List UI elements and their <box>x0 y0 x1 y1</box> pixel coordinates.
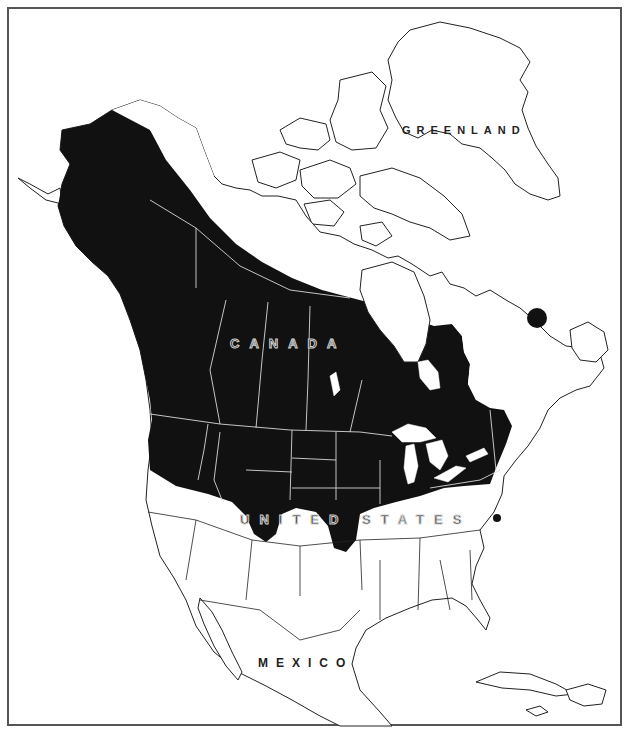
alaska-peninsula <box>18 178 62 204</box>
cuba <box>476 672 574 696</box>
ellesmere-island <box>330 72 388 150</box>
label-greenland: GREENLAND <box>402 124 526 136</box>
victoria-island <box>300 160 356 198</box>
label-united-states: UNITED STATES <box>240 512 471 527</box>
greenland-landmass <box>388 22 560 200</box>
label-mexico: MEXICO <box>258 656 353 670</box>
jamaica <box>526 706 548 716</box>
southampton-island <box>360 222 392 246</box>
hispaniola <box>566 684 606 706</box>
range-map <box>0 0 626 736</box>
delmarva-range-patch <box>493 514 501 522</box>
arctic-island <box>252 152 300 188</box>
label-canada: CANADA <box>230 336 346 351</box>
labrador-range-patch <box>527 308 547 328</box>
arctic-island <box>280 118 330 150</box>
